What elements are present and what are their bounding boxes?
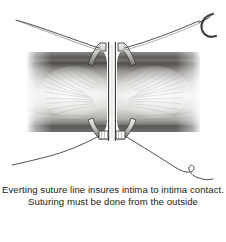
vessel-wall-right xyxy=(117,52,202,132)
caption-line-1: Everting suture line insures intima to i… xyxy=(0,184,226,196)
caption-block: Everting suture line insures intima to i… xyxy=(0,182,226,209)
suture-knot-left xyxy=(99,131,108,139)
caption-line-2: Suturing must be done from the outside xyxy=(0,196,226,208)
figure-root: Everting suture line insures intima to i… xyxy=(0,0,226,242)
suture-knot-right xyxy=(116,131,125,139)
anastomosis-seam xyxy=(108,42,116,141)
anastomosis-illustration xyxy=(0,0,226,182)
illustration-area xyxy=(0,0,226,182)
vessel-wall-left-fade xyxy=(26,52,52,132)
vessel-wall-left xyxy=(26,52,108,132)
vessel-wall-right-fade xyxy=(176,52,202,132)
